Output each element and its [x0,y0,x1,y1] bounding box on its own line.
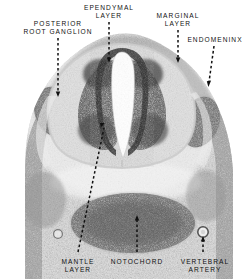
label-notochord: NOTOCHORD [106,258,168,266]
label-endomeninx: ENDOMENINX [182,36,248,44]
label-posterior-root-ganglion: POSTERIOR ROOT GANGLION [6,20,110,37]
label-marginal-layer: MARGINAL LAYER [150,12,206,29]
label-ependymal-layer: EPENDYMAL LAYER [78,4,140,21]
histology-figure: POSTERIOR ROOT GANGLION EPENDYMAL LAYER … [0,0,249,279]
label-mantle-layer: MANTLE LAYER [47,258,109,275]
label-vertebral-artery: VERTEBRAL ARTERY [172,258,238,275]
